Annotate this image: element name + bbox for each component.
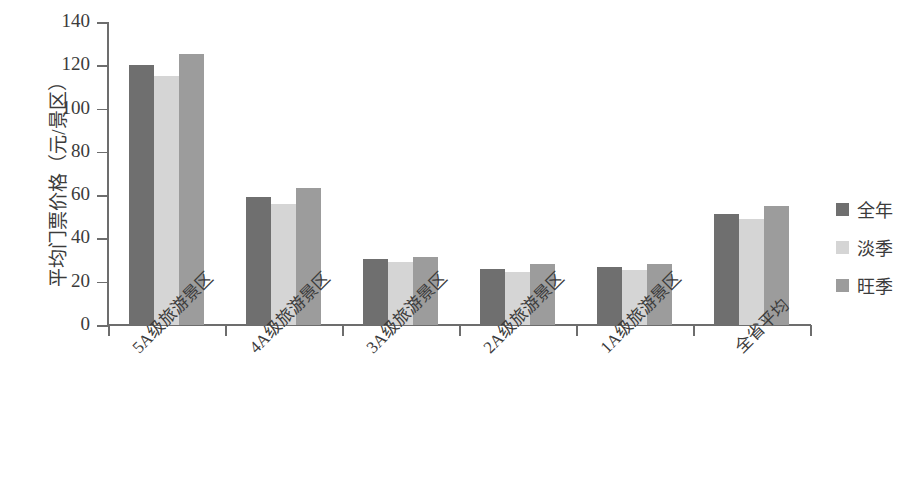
x-axis-tick (108, 325, 110, 336)
bar (714, 214, 739, 325)
x-axis-tick (576, 325, 578, 336)
legend: 全年淡季旺季 (836, 190, 893, 304)
legend-swatch (836, 241, 849, 254)
y-axis-tick: 80 (97, 152, 108, 154)
y-axis-tick: 120 (97, 65, 108, 67)
x-axis-tick (342, 325, 344, 336)
y-axis-tick: 140 (97, 22, 108, 24)
legend-item: 旺季 (836, 266, 893, 304)
legend-label: 旺季 (857, 272, 893, 298)
y-axis-tick: 40 (97, 238, 108, 240)
x-axis-tick (225, 325, 227, 336)
bar-group (714, 22, 789, 325)
y-axis-tick-label: 20 (71, 270, 90, 292)
legend-label: 全年 (857, 196, 893, 222)
y-axis-tick-label: 60 (71, 183, 90, 205)
bar-chart: 平均门票价格（元/景区） 020406080100120140 5A级旅游景区4… (0, 0, 924, 486)
y-axis-tick-label: 140 (62, 10, 91, 32)
legend-item: 全年 (836, 190, 893, 228)
y-axis-tick: 0 (97, 325, 108, 327)
x-axis-tick (693, 325, 695, 336)
y-axis-tick-label: 40 (71, 226, 90, 248)
bar (129, 65, 154, 325)
y-axis-tick-label: 100 (62, 97, 91, 119)
y-axis-tick: 20 (97, 282, 108, 284)
legend-swatch (836, 279, 849, 292)
legend-item: 淡季 (836, 228, 893, 266)
legend-swatch (836, 203, 849, 216)
y-axis-tick-label: 0 (81, 313, 91, 335)
bar (246, 197, 271, 325)
bar (154, 76, 179, 325)
y-axis-tick-label: 80 (71, 140, 90, 162)
legend-label: 淡季 (857, 234, 893, 260)
x-axis-tick (810, 325, 812, 336)
y-axis-tick: 100 (97, 109, 108, 111)
y-axis-tick: 60 (97, 195, 108, 197)
x-axis-tick (459, 325, 461, 336)
y-axis-tick-label: 120 (62, 53, 91, 75)
